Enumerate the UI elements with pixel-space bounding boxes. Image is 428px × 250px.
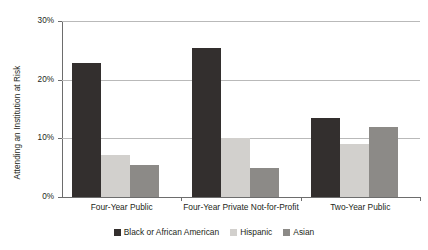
y-axis-tick-mark xyxy=(58,138,62,139)
legend-item: Hispanic xyxy=(230,228,272,236)
x-axis-tick-mark xyxy=(420,197,421,201)
legend-item: Asian xyxy=(283,228,314,236)
bar xyxy=(192,48,221,197)
bar xyxy=(101,155,130,197)
bar xyxy=(369,127,398,197)
bar xyxy=(130,165,159,197)
y-axis-tick-label: 30% xyxy=(14,17,54,25)
x-axis-tick-label: Four-Year Public xyxy=(62,203,181,212)
x-axis-tick-labels: Four-Year PublicFour-Year Private Not-fo… xyxy=(62,203,420,217)
x-axis-tick-label: Four-Year Private Not-for-Profit xyxy=(181,203,300,212)
legend-label: Hispanic xyxy=(240,228,272,236)
gridline xyxy=(62,21,420,22)
bar xyxy=(250,168,279,197)
bar xyxy=(340,144,369,197)
y-axis-tick-label: 0% xyxy=(14,193,54,201)
y-axis-tick-mark xyxy=(58,197,62,198)
bar xyxy=(221,138,250,197)
chart-legend: Black or African AmericanHispanicAsian xyxy=(0,228,428,236)
bar xyxy=(72,63,101,197)
legend-label: Asian xyxy=(293,228,314,236)
gridline xyxy=(62,80,420,81)
x-axis-tick-label: Two-Year Public xyxy=(301,203,420,212)
legend-label: Black or African American xyxy=(124,228,219,236)
y-axis-tick-labels: 0%10%20%30% xyxy=(14,21,54,197)
y-axis-tick-mark xyxy=(58,80,62,81)
plot-area xyxy=(62,21,420,197)
legend-swatch-icon xyxy=(283,229,290,236)
axis-baseline xyxy=(62,197,420,198)
x-axis-tick-mark xyxy=(301,197,302,201)
legend-item: Black or African American xyxy=(114,228,219,236)
legend-swatch-icon xyxy=(114,229,121,236)
y-axis-tick-mark xyxy=(58,21,62,22)
x-axis-tick-mark xyxy=(181,197,182,201)
bar xyxy=(311,118,340,197)
y-axis-tick-label: 20% xyxy=(14,76,54,84)
y-axis-tick-label: 10% xyxy=(14,134,54,142)
legend-swatch-icon xyxy=(230,229,237,236)
bar-chart: Attending an Institution at Risk 0%10%20… xyxy=(0,0,428,250)
